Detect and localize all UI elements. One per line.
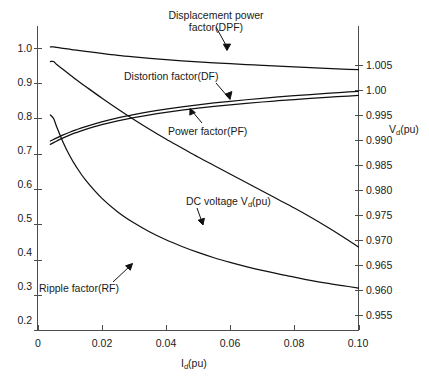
- x-axis-title-subscript: d: [184, 362, 188, 371]
- x-tick-label: 0.06: [214, 338, 246, 349]
- top-edge-strip: [0, 0, 429, 3]
- rf-annotation: Ripple factor(RF): [39, 283, 119, 295]
- y2-tick-label: 0.985: [366, 160, 392, 171]
- pf-annotation: Power factor(PF): [168, 126, 247, 138]
- y2-tick-label: 0.955: [366, 310, 392, 321]
- curve-displacement-power-factor-dpf: [50, 47, 358, 70]
- x-tick-label: 0: [22, 338, 54, 349]
- y-tick-label: 0.4: [2, 247, 32, 258]
- pf-annotation-label: Power factor(PF): [168, 125, 247, 137]
- y2-tick-label: 0.990: [366, 135, 392, 146]
- y2-axis-title-suffix: (pu): [400, 123, 419, 135]
- rf-arrow: [113, 264, 133, 283]
- y-tick-label: 0.5: [2, 213, 32, 224]
- y2-tick-label: 0.960: [366, 285, 392, 296]
- y-tick-label: 0.6: [2, 179, 32, 190]
- x-tick-label: 0.04: [150, 338, 182, 349]
- dc-voltage-arrow: [197, 208, 204, 225]
- y-tick-label: 0.9: [2, 77, 32, 88]
- dpf-annotation: Displacement power factor(DPF): [151, 10, 281, 33]
- y2-axis-title: Vd(pu): [389, 124, 419, 135]
- chart-plot-area: [0, 0, 429, 378]
- x-tick-label: 0.10: [342, 338, 374, 349]
- y2-axis-title-subscript: d: [396, 128, 400, 137]
- y2-axis-title-prefix: V: [389, 123, 396, 135]
- x-tick-label: 0.02: [86, 338, 118, 349]
- dc-voltage-annotation: DC voltage Vd(pu): [186, 196, 271, 208]
- df-arrow: [216, 83, 232, 100]
- chart-figure: 1.0 0.9 0.8 0.7 0.6 0.5 0.4 0.3 0.2 1.00…: [0, 0, 429, 378]
- y-tick-label: 0.7: [2, 145, 32, 156]
- y2-tick-label: 1.005: [366, 60, 392, 71]
- df-annotation-label: Distortion factor(DF): [124, 70, 219, 82]
- pf-arrow: [190, 109, 202, 124]
- data-curves: [50, 47, 358, 288]
- y2-tick-label: 0.980: [366, 185, 392, 196]
- rf-annotation-label: Ripple factor(RF): [39, 282, 119, 294]
- dc-voltage-annotation-prefix: DC voltage V: [186, 195, 248, 207]
- y-tick-label: 0.3: [2, 281, 32, 292]
- annotation-leader-lines: [113, 27, 232, 282]
- y2-tick-label: 1.00: [366, 85, 386, 96]
- y-tick-label: 0.8: [2, 111, 32, 122]
- y2-tick-label: 0.970: [366, 235, 392, 246]
- dc-voltage-annotation-suffix: (pu): [252, 195, 271, 207]
- df-annotation: Distortion factor(DF): [124, 71, 219, 83]
- x-tick-label: 0.08: [278, 338, 310, 349]
- y-tick-label: 1.0: [2, 43, 32, 54]
- bottom-axis-ticks: [39, 325, 360, 330]
- y2-tick-label: 0.975: [366, 210, 392, 221]
- y2-tick-label: 0.995: [366, 110, 392, 121]
- y-tick-label: 0.2: [2, 315, 32, 326]
- y2-tick-label: 0.965: [366, 260, 392, 271]
- x-axis-title-suffix: (pu): [188, 357, 207, 369]
- dpf-annotation-line2: factor(DPF): [151, 22, 281, 34]
- dc-voltage-annotation-subscript: d: [248, 200, 252, 209]
- x-axis-title: Id(pu): [181, 358, 207, 369]
- dpf-annotation-line1: Displacement power: [151, 10, 281, 22]
